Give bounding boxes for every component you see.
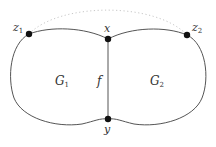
- label-x: x: [104, 23, 110, 34]
- node-z2: [184, 32, 190, 38]
- label-y: y: [104, 124, 110, 135]
- label-f: f: [97, 75, 101, 87]
- node-y: [105, 116, 111, 122]
- label-G1: G1: [55, 75, 69, 89]
- node-x: [105, 36, 111, 42]
- label-z1: z1: [13, 22, 23, 35]
- node-z1: [26, 31, 32, 37]
- label-G2: G2: [150, 75, 164, 89]
- label-z2: z2: [192, 22, 202, 35]
